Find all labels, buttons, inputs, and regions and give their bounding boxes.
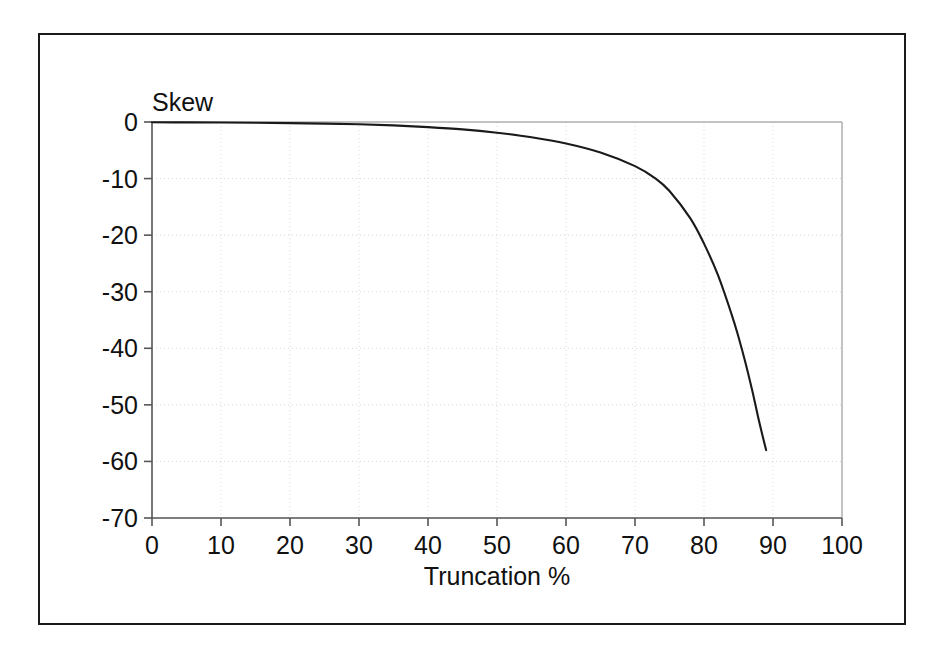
y-tick-label: 0 [124, 108, 138, 136]
y-tick-label: -60 [102, 447, 138, 475]
y-tick-label: -50 [102, 391, 138, 419]
x-tick-label: 10 [207, 531, 235, 559]
data-line-group [152, 122, 766, 450]
x-tick-label: 60 [552, 531, 580, 559]
x-tick-label: 80 [690, 531, 718, 559]
x-tick-label: 50 [483, 531, 511, 559]
tick-marks-group [144, 122, 842, 526]
figure-container: 0102030405060708090100 0-10-20-30-40-50-… [0, 0, 936, 656]
x-tick-label: 30 [345, 531, 373, 559]
y-tick-label: -40 [102, 334, 138, 362]
y-axis-title: Skew [152, 88, 214, 116]
x-tick-label: 90 [759, 531, 787, 559]
x-tick-label: 100 [821, 531, 863, 559]
y-tick-label: -70 [102, 504, 138, 532]
y-tick-label: -20 [102, 221, 138, 249]
x-tick-labels-group: 0102030405060708090100 [145, 531, 863, 559]
gridlines-group [152, 122, 842, 518]
x-axis-title: Truncation % [424, 562, 570, 590]
x-tick-label: 40 [414, 531, 442, 559]
y-tick-labels-group: 0-10-20-30-40-50-60-70 [102, 108, 138, 532]
x-tick-label: 0 [145, 531, 159, 559]
y-tick-label: -10 [102, 165, 138, 193]
x-tick-label: 70 [621, 531, 649, 559]
x-tick-label: 20 [276, 531, 304, 559]
y-tick-label: -30 [102, 278, 138, 306]
skew-curve [152, 122, 766, 450]
skew-vs-truncation-chart: 0102030405060708090100 0-10-20-30-40-50-… [0, 0, 936, 656]
